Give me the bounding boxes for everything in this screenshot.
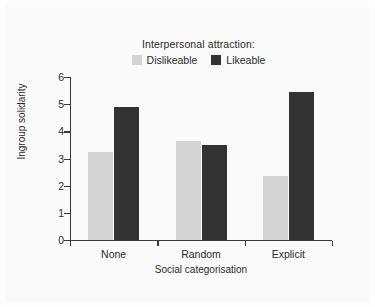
legend-label-likeable: Likeable (226, 54, 265, 66)
x-axis-tick-mark (245, 241, 246, 246)
y-axis-tick-mark (64, 104, 70, 105)
bar (88, 152, 113, 240)
x-axis-tick-mark (70, 241, 71, 246)
x-axis-tick-mark (157, 241, 158, 246)
y-axis-tick-mark (64, 77, 70, 78)
legend-item-dislikeable: Dislikeable (132, 54, 198, 66)
x-axis-category-label: None (101, 248, 126, 260)
y-axis-tick-mark (64, 186, 70, 187)
legend-swatch-dislikeable (132, 55, 142, 65)
y-axis-tick-mark (64, 131, 70, 132)
chart-figure: Interpersonal attraction: Dislikeable Li… (0, 0, 375, 307)
y-axis-tick-mark (64, 213, 70, 214)
bar (202, 145, 227, 240)
legend-item-likeable: Likeable (211, 54, 265, 66)
bar (114, 107, 139, 240)
x-axis-category-label: Random (181, 248, 221, 260)
y-axis-tick-mark (64, 159, 70, 160)
chart-legend: Interpersonal attraction: Dislikeable Li… (0, 38, 375, 66)
bar (263, 176, 288, 240)
legend-label-dislikeable: Dislikeable (147, 54, 198, 66)
bar (176, 141, 201, 240)
legend-swatch-likeable (211, 55, 221, 65)
legend-title: Interpersonal attraction: (0, 38, 375, 50)
x-axis-tick-mark (332, 241, 333, 246)
legend-entries: Dislikeable Likeable (0, 54, 375, 66)
bar (289, 92, 314, 240)
x-axis-category-label: Explicit (272, 248, 305, 260)
x-axis-title: Social categorisation (70, 264, 332, 275)
